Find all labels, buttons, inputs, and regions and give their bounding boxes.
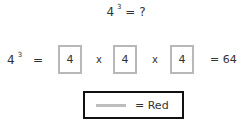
question-exponent: 3 — [117, 3, 121, 11]
factor-box-2[interactable]: 4 — [113, 45, 137, 74]
multiply-sign-2: x — [152, 54, 158, 65]
result: = 64 — [210, 53, 237, 66]
factor-box-3[interactable]: 4 — [170, 45, 194, 74]
power-expression: 43 — [7, 53, 22, 67]
power-base: 4 — [7, 53, 15, 67]
legend-swatch-icon — [96, 104, 126, 107]
equals-sign: = — [33, 53, 43, 67]
question-title: 43 = ? — [0, 5, 252, 19]
factor-box-1[interactable]: 4 — [58, 45, 82, 74]
question-rest: = ? — [125, 5, 145, 19]
legend-label: = Red — [135, 99, 169, 112]
question-base: 4 — [106, 5, 114, 19]
legend: = Red — [83, 91, 184, 119]
power-exponent: 3 — [18, 51, 22, 59]
multiply-sign-1: x — [96, 54, 102, 65]
